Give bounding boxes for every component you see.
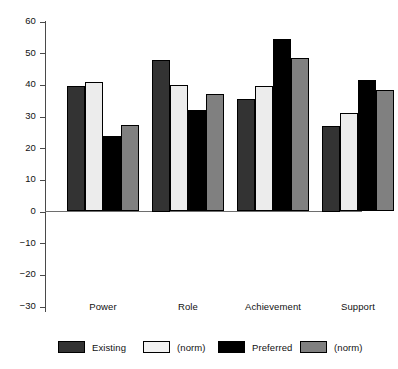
y-tick-label: 30: [2, 111, 36, 121]
bar-role-series-0: [152, 60, 170, 212]
y-tick-label: 60: [2, 16, 36, 26]
chart-legend: Existing(norm)Preferred(norm): [0, 338, 373, 358]
y-tick-mark: [40, 85, 46, 86]
y-tick-label: −20: [2, 269, 36, 279]
y-tick-mark: [40, 22, 46, 23]
legend-label: Preferred: [252, 342, 293, 353]
y-tick-label: −10: [2, 238, 36, 248]
bar-role-series-3: [206, 94, 224, 211]
bar-support-series-0: [322, 126, 340, 212]
bar-power-series-2: [103, 136, 121, 211]
y-tick-mark: [40, 275, 46, 276]
legend-item-1[interactable]: (norm): [143, 338, 206, 356]
bar-achievement-series-2: [273, 39, 291, 212]
bar-power-series-0: [67, 86, 85, 212]
y-tick-mark: [40, 180, 46, 181]
legend-swatch-icon: [218, 341, 245, 353]
bar-support-series-2: [358, 80, 376, 211]
legend-swatch-icon: [143, 341, 170, 353]
bar-role-series-1: [170, 85, 188, 212]
y-tick-mark: [40, 148, 46, 149]
bar-power-series-1: [85, 82, 103, 212]
legend-label: Existing: [92, 342, 126, 353]
legend-item-2[interactable]: Preferred: [218, 338, 293, 356]
legend-swatch-icon: [58, 341, 85, 353]
bar-achievement-series-1: [255, 86, 273, 211]
y-tick-label: 10: [2, 174, 36, 184]
y-tick-mark: [40, 117, 46, 118]
legend-item-3[interactable]: (norm): [300, 338, 363, 356]
bar-support-series-1: [340, 113, 358, 211]
legend-label: (norm): [177, 342, 206, 353]
y-tick-mark: [40, 212, 46, 213]
y-tick-label: 0: [2, 206, 36, 216]
legend-item-0[interactable]: Existing: [58, 338, 126, 356]
y-tick-label: 20: [2, 143, 36, 153]
bar-achievement-series-3: [291, 58, 309, 212]
category-label-support: Support: [298, 301, 398, 312]
legend-label: (norm): [334, 342, 363, 353]
y-tick-label: 50: [2, 48, 36, 58]
bar-support-series-3: [376, 90, 394, 212]
y-tick-mark: [40, 243, 46, 244]
y-tick-label: −30: [2, 301, 36, 311]
bar-power-series-3: [121, 125, 139, 211]
bar-role-series-2: [188, 110, 206, 211]
y-tick-label: 40: [2, 79, 36, 89]
y-axis-line: [45, 21, 46, 312]
bar-achievement-series-0: [237, 99, 255, 211]
y-tick-mark: [40, 53, 46, 54]
legend-swatch-icon: [300, 341, 327, 353]
